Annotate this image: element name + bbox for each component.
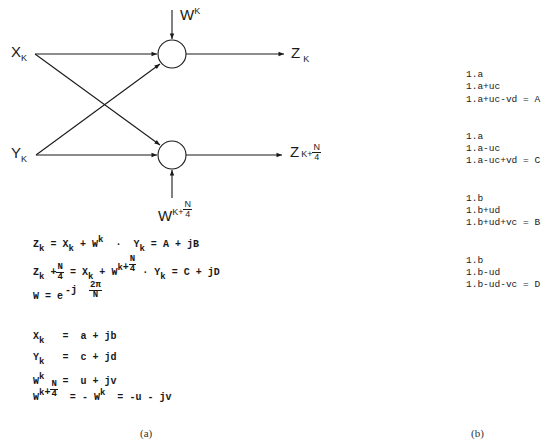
eq-exp-prefix: -j xyxy=(65,285,77,296)
eq-sub: k xyxy=(39,357,44,367)
eq-op: = xyxy=(117,392,123,403)
step-line: 1.a+uc xyxy=(466,81,540,93)
wkn4-base: W xyxy=(158,207,172,224)
eq-op: = xyxy=(45,291,51,302)
sum-node-bottom xyxy=(158,141,186,169)
step-group-a: 1.a 1.a+uc 1.a+uc-vd = A xyxy=(466,69,540,106)
zkn4-base: Z xyxy=(290,143,299,160)
frac-den: 4 xyxy=(50,390,57,399)
eq-term: W xyxy=(33,291,39,302)
eq-frac: N4 xyxy=(129,255,136,274)
frac-den: 4 xyxy=(129,265,136,274)
step-group-d: 1.b 1.b-ud 1.b-ud-vc = D xyxy=(466,255,540,292)
eq-op: + xyxy=(99,267,105,278)
caption-b: (b) xyxy=(471,427,484,439)
eq-frac: 2πN xyxy=(89,281,102,300)
eq-op: - xyxy=(82,392,88,403)
frac-den: 4 xyxy=(312,153,321,162)
wk-sup: K xyxy=(194,6,200,16)
eq-rhs: A + jB xyxy=(163,239,199,250)
wkn4-frac: N4 xyxy=(183,200,192,219)
twiddle-label-wkn4: WK+N4 xyxy=(158,200,192,224)
step-line: 1.b+ud+vc = B xyxy=(466,217,540,229)
caption-a: (a) xyxy=(140,427,152,439)
eq-op: = xyxy=(70,267,76,278)
eq-op: · xyxy=(115,239,121,250)
twiddle-label-wk: WK xyxy=(180,6,200,23)
eq-frac: N4 xyxy=(50,380,57,399)
eq-rhs: C + jD xyxy=(184,267,220,278)
edge-yk-top xyxy=(36,64,160,155)
wk-base: W xyxy=(180,6,194,23)
eq-sub: k xyxy=(139,244,144,254)
step-line: 1.b-ud xyxy=(466,267,540,279)
step-line: 1.a-uc xyxy=(466,143,540,155)
eq-op: · xyxy=(142,267,148,278)
eq-op: = xyxy=(70,392,76,403)
zk-base: Z xyxy=(291,44,300,61)
eq-rhs: -u - jv xyxy=(129,392,171,403)
equation-wkn4-negation: Wk+N4 = - Wk = -u - jv xyxy=(33,380,171,403)
input-label-yk: YK xyxy=(11,144,27,164)
step-line: 1.b xyxy=(466,255,540,267)
eq-sup: k xyxy=(100,388,105,398)
yk-sub: K xyxy=(21,154,27,164)
step-line: 1.a-uc+vd = C xyxy=(466,155,540,167)
eq-op: = xyxy=(50,239,56,250)
step-line: 1.a xyxy=(466,69,540,81)
output-label-zkn4: ZK+N4 xyxy=(290,143,321,162)
equation-w-definition: W = e-j 2πN xyxy=(33,281,102,302)
step-line: 1.a+uc-vd = A xyxy=(466,94,540,106)
eq-sub: k xyxy=(39,336,44,346)
eq-frac: N4 xyxy=(56,263,63,282)
xk-base: X xyxy=(11,43,21,60)
input-label-xk: XK xyxy=(11,43,27,63)
output-label-zk: ZK xyxy=(291,44,309,64)
eq-sub: k xyxy=(68,244,73,254)
frac-den: 4 xyxy=(183,210,192,219)
step-group-c: 1.a 1.a-uc 1.a-uc+vd = C xyxy=(466,131,540,168)
sum-node-top xyxy=(158,40,186,68)
eq-sub: k xyxy=(39,244,44,254)
equation-zkn4: Zk +N4 = Xk + Wk+N4 · Yk = C + jD xyxy=(33,255,220,282)
step-line: 1.b xyxy=(466,193,540,205)
zk-sub: K xyxy=(303,54,309,64)
step-line: 1.b-ud-vc = D xyxy=(466,279,540,291)
zkn4-frac: N4 xyxy=(312,143,321,162)
frac-den: N xyxy=(89,291,102,300)
step-line: 1.b+ud xyxy=(466,205,540,217)
eq-op: = xyxy=(151,239,157,250)
eq-sup: k xyxy=(98,235,103,245)
eq-op: = xyxy=(172,267,178,278)
eq-term: e xyxy=(57,291,63,302)
eq-op: = xyxy=(62,331,68,342)
step-group-b: 1.b 1.b+ud 1.b+ud+vc = B xyxy=(466,193,540,230)
definition-xk: Xk = a + jb xyxy=(33,329,116,350)
eq-op: = xyxy=(62,352,68,363)
eq-op: + xyxy=(80,239,86,250)
eq-rhs: a + jb xyxy=(80,331,116,342)
wkn4-sup-prefix: K+ xyxy=(172,207,183,217)
definition-yk: Yk = c + jd xyxy=(33,350,116,371)
computation-steps: 1.a 1.a+uc 1.a+uc-vd = A 1.a 1.a-uc 1.a-… xyxy=(466,69,540,317)
xk-sub: K xyxy=(21,53,27,63)
eq-sub: k xyxy=(160,272,165,282)
step-line: 1.a xyxy=(466,131,540,143)
equation-zk: Zk = Xk + Wk · Yk = A + jB xyxy=(33,235,199,254)
yk-base: Y xyxy=(11,144,21,161)
eq-rhs: c + jd xyxy=(80,352,116,363)
zkn4-sub-prefix: K+ xyxy=(301,149,312,159)
edge-xk-bottom xyxy=(35,54,160,145)
